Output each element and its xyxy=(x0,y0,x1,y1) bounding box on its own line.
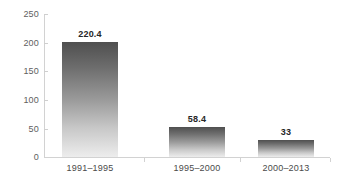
x-tick-mark-1 xyxy=(144,158,145,162)
y-tick-label-200: 200 xyxy=(0,38,39,49)
x-tick-mark-3 xyxy=(330,158,331,162)
y-tick-mark-250 xyxy=(44,14,48,15)
y-tick-mark-150 xyxy=(44,71,48,72)
y-tick-label-150: 150 xyxy=(0,66,39,77)
y-tick-label-50: 50 xyxy=(0,124,39,135)
y-tick-mark-50 xyxy=(44,129,48,130)
x-category-label-3: 2000–2013 xyxy=(250,163,322,173)
bar-value-1991-1995: 220.4 xyxy=(62,29,118,39)
y-tick-label-200-text: 200 xyxy=(0,38,39,48)
y-tick-label-100-text: 100 xyxy=(0,95,39,105)
bar-value-2000-2013: 33 xyxy=(258,127,314,137)
x-category-label-1: 1991–1995 xyxy=(54,163,126,173)
y-tick-label-250: 250 xyxy=(0,9,39,20)
y-tick-mark-100 xyxy=(44,100,48,101)
x-category-label-2: 1995–2000 xyxy=(161,163,233,173)
y-axis-line xyxy=(44,14,45,158)
y-tick-mark-200 xyxy=(44,43,48,44)
bar-2000-2013[interactable] xyxy=(258,140,314,157)
bar-chart: 250 200 150 100 50 0 220.4 1991–1995 58.… xyxy=(0,0,348,186)
x-tick-mark-2 xyxy=(240,158,241,162)
y-tick-label-250-text: 250 xyxy=(0,9,39,19)
y-tick-label-150-text: 150 xyxy=(0,66,39,76)
y-tick-label-0-text: 0 xyxy=(0,152,39,162)
y-tick-label-100: 100 xyxy=(0,95,39,106)
x-axis-baseline xyxy=(44,157,330,158)
bar-value-1995-2000: 58.4 xyxy=(169,114,225,124)
y-tick-label-50-text: 50 xyxy=(0,124,39,134)
bar-1991-1995[interactable] xyxy=(62,42,118,157)
bar-1995-2000[interactable] xyxy=(169,127,225,157)
y-tick-label-0: 0 xyxy=(0,152,39,163)
